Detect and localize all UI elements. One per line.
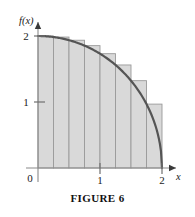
y-axis-arrow-icon <box>35 22 41 29</box>
x-axis-label: x <box>175 171 181 182</box>
y-tick-label-1: 1 <box>23 96 29 108</box>
riemann-rectangle <box>116 65 132 168</box>
riemann-rectangle <box>131 81 147 168</box>
x-tick-label-1: 1 <box>97 174 103 186</box>
x-axis-arrow-icon <box>169 165 176 171</box>
riemann-rectangle <box>100 54 116 168</box>
origin-label: 0 <box>27 172 33 184</box>
figure-caption: FIGURE 6 <box>0 192 195 204</box>
riemann-sum-plot: f(x) x 2 1 0 1 2 <box>0 0 195 190</box>
rectangles-group <box>38 36 162 168</box>
y-tick-label-2: 2 <box>23 30 29 42</box>
y-axis-label: f(x) <box>19 15 34 27</box>
figure-container: f(x) x 2 1 0 1 2 FIGURE 6 <box>0 0 195 217</box>
riemann-rectangle <box>54 37 70 168</box>
riemann-rectangle <box>85 46 101 168</box>
riemann-rectangle <box>147 104 163 168</box>
riemann-rectangle <box>69 40 85 168</box>
x-tick-label-2: 2 <box>159 174 165 186</box>
